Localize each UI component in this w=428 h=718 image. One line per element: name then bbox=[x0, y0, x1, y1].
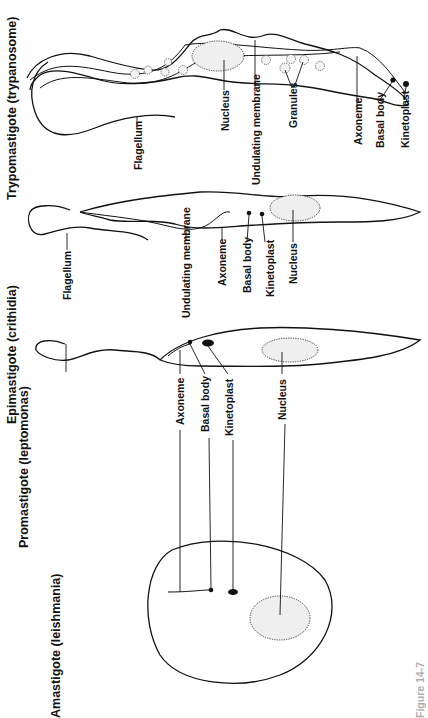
promastigote-flagellum bbox=[36, 341, 160, 361]
granule bbox=[179, 66, 188, 75]
epimastigote-basal-body bbox=[247, 211, 252, 216]
granule bbox=[287, 55, 296, 64]
trypomastigote-title: Trypomastigote (trypanosome) bbox=[5, 17, 19, 200]
diagram-canvas: Trypomastigote (trypanosome) Flagellu bbox=[0, 0, 428, 718]
label-nucleus: Nucleus bbox=[219, 90, 231, 131]
trypomastigote-basal-body bbox=[390, 77, 395, 82]
granule bbox=[144, 66, 152, 74]
label-nucleus: Nucleus bbox=[287, 243, 299, 284]
promastigote-kinetoplast bbox=[202, 340, 214, 347]
promastigote-group: Promastigote (leptomonas) Axoneme Basal … bbox=[17, 328, 420, 549]
amastigote-group: Amastigote (leishmania) bbox=[49, 424, 332, 718]
label-nucleus: Nucleus bbox=[276, 379, 288, 420]
granule bbox=[316, 62, 325, 71]
epimastigote-undulating-membrane-line bbox=[80, 212, 230, 230]
granule bbox=[161, 68, 169, 76]
label-kinetoplast: Kinetoplast bbox=[223, 378, 235, 436]
granule bbox=[165, 59, 172, 66]
label-undulating-membrane: Undulating membrane bbox=[250, 74, 262, 185]
label-axoneme: Axoneme bbox=[174, 378, 186, 425]
granule bbox=[280, 63, 290, 73]
amastigote-title: Amastigote (leishmania) bbox=[49, 574, 63, 718]
granule bbox=[131, 70, 140, 79]
amastigote-basal-body bbox=[209, 588, 214, 593]
label-axoneme: Axoneme bbox=[216, 239, 228, 286]
label-flagellum: Flagellum bbox=[132, 121, 144, 170]
trypomastigote-kinetoplast bbox=[403, 81, 409, 87]
label-basal-body: Basal body bbox=[241, 237, 253, 293]
label-kinetoplast: Kinetoplast bbox=[264, 239, 276, 297]
epimastigote-flagellum bbox=[29, 206, 148, 240]
epimastigote-nucleus bbox=[270, 195, 320, 221]
amastigote-axoneme-line bbox=[168, 590, 210, 592]
granule bbox=[300, 56, 309, 65]
epimastigote-body-outline bbox=[80, 192, 420, 228]
label-undulating-membrane: Undulating membrane bbox=[180, 207, 192, 318]
epimastigote-kinetoplast bbox=[260, 212, 265, 217]
figure-caption: Figure 14-7 bbox=[414, 662, 426, 718]
promastigote-title: Promastigote (leptomonas) bbox=[17, 386, 31, 548]
promastigote-nucleus bbox=[262, 338, 318, 362]
label-granules: Granules bbox=[287, 82, 299, 128]
epimastigote-group: Epimastigote (crithidia) Flagellum Undul… bbox=[5, 192, 420, 424]
label-basal-body: Basal body bbox=[374, 92, 386, 148]
label-basal-body: Basal body bbox=[199, 376, 211, 432]
promastigote-basal-body bbox=[188, 340, 193, 345]
label-axoneme: Axoneme bbox=[352, 98, 364, 145]
granule bbox=[262, 56, 271, 65]
label-kinetoplast: Kinetoplast bbox=[399, 90, 411, 148]
trypomastigote-group: Trypomastigote (trypanosome) Flagellu bbox=[5, 17, 411, 200]
label-flagellum: Flagellum bbox=[61, 251, 73, 300]
trypomastigote-flagellum bbox=[32, 62, 175, 135]
trypomastigote-nucleus bbox=[192, 41, 244, 71]
